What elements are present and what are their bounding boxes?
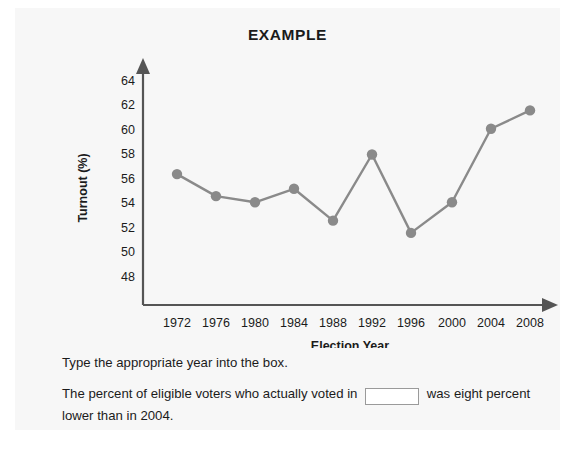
data-point-1980 [250,197,260,207]
turnout-line-chart: 64 62 60 58 56 54 52 50 48 Turnout (%) 1… [15,8,560,348]
data-point-1992 [367,149,377,159]
turnout-markers [172,105,535,238]
y-tick-label: 56 [121,172,135,186]
y-tick-labels: 64 62 60 58 56 54 52 50 48 [121,74,135,284]
turnout-line [177,110,530,232]
data-point-2004 [486,124,496,134]
x-tick-label: 1980 [241,316,269,330]
y-axis [136,58,150,305]
question-block: Type the appropriate year into the box. … [62,352,532,426]
data-point-1976 [211,191,221,201]
question-prompt: Type the appropriate year into the box. [62,352,532,373]
y-tick-label: 58 [121,147,135,161]
data-point-2000 [447,197,457,207]
x-tick-label: 2008 [516,316,544,330]
data-point-1996 [406,228,416,238]
year-answer-input[interactable] [365,388,419,405]
y-tick-label: 54 [121,196,135,210]
y-tick-label: 60 [121,123,135,137]
y-tick-label: 62 [121,98,135,112]
x-axis-title: Election Year [311,339,389,348]
x-axis [143,298,558,312]
y-tick-label: 50 [121,245,135,259]
example-card: EXAMPLE 64 62 60 58 56 54 52 50 [15,8,560,430]
x-tick-label: 1988 [319,316,347,330]
data-point-1984 [289,184,299,194]
data-point-1988 [328,215,338,225]
x-tick-labels: 1972 1976 1980 1984 1988 1992 1996 2000 … [163,316,544,330]
x-tick-label: 1984 [280,316,308,330]
question-sentence: The percent of eligible voters who actua… [62,383,532,426]
x-tick-label: 1992 [358,316,386,330]
y-tick-label: 64 [121,74,135,88]
x-tick-label: 1976 [202,316,230,330]
x-tick-label: 1996 [397,316,425,330]
question-sentence-part1: The percent of eligible voters who actua… [62,386,357,401]
data-point-1972 [172,169,182,179]
y-tick-label: 52 [121,221,135,235]
y-axis-title: Turnout (%) [76,153,90,222]
x-tick-label: 2000 [438,316,466,330]
x-tick-label: 2004 [477,316,505,330]
chart-svg: 64 62 60 58 56 54 52 50 48 Turnout (%) 1… [15,8,560,348]
x-tick-label: 1972 [163,316,191,330]
data-point-2008 [525,105,535,115]
y-tick-label: 48 [121,270,135,284]
